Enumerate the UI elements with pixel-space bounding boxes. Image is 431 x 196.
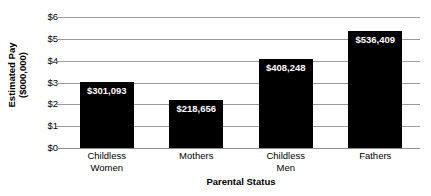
bar-chart: Estimated Pay ($000,000) $0$1$2$3$4$5$6 … <box>0 0 431 196</box>
x-axis-title: Parental Status <box>62 176 420 188</box>
bar-value-label: $536,409 <box>348 34 402 45</box>
x-tick-label: ChildlessMen <box>241 150 331 173</box>
y-tick-label: $2 <box>34 99 58 109</box>
gridline-0 <box>62 148 420 149</box>
y-tick-mark-0 <box>56 148 62 149</box>
y-tick-label: $4 <box>34 56 58 66</box>
bar: $301,093 <box>80 82 134 148</box>
y-tick-label: $6 <box>34 12 58 22</box>
y-axis-title: Estimated Pay ($000,000) <box>0 0 34 150</box>
y-tick-label: $3 <box>34 78 58 88</box>
bar-series: $301,093$218,656$408,248$536,409 <box>62 17 420 148</box>
bar-value-label: $218,656 <box>169 103 223 114</box>
bar: $536,409 <box>348 31 402 148</box>
y-tick-label: $5 <box>34 34 58 44</box>
y-axis-title-line2: ($000,000) <box>17 43 28 108</box>
x-tick-label-line2: Men <box>241 162 331 174</box>
x-tick-label: Fathers <box>331 150 421 162</box>
y-axis-title-line1: Estimated Pay <box>6 43 17 108</box>
y-tick-label: $1 <box>34 121 58 131</box>
x-tick-label-line1: Childless <box>87 150 126 161</box>
plot-area: $301,093$218,656$408,248$536,409 <box>62 17 420 148</box>
y-axis-tick-labels: $0$1$2$3$4$5$6 <box>34 0 60 196</box>
x-tick-label: Mothers <box>152 150 242 162</box>
bar: $218,656 <box>169 100 223 148</box>
x-tick-label: ChildlessWomen <box>62 150 152 173</box>
x-axis-tick-labels: ChildlessWomenMothersChildlessMenFathers <box>62 150 420 176</box>
bar: $408,248 <box>259 59 313 148</box>
bar-value-label: $301,093 <box>80 85 134 96</box>
bar-value-label: $408,248 <box>259 62 313 73</box>
x-tick-label-line1: Mothers <box>179 150 213 161</box>
x-tick-label-line2: Women <box>62 162 152 174</box>
x-tick-label-line1: Fathers <box>359 150 391 161</box>
y-tick-label: $0 <box>34 143 58 153</box>
x-tick-label-line1: Childless <box>266 150 305 161</box>
